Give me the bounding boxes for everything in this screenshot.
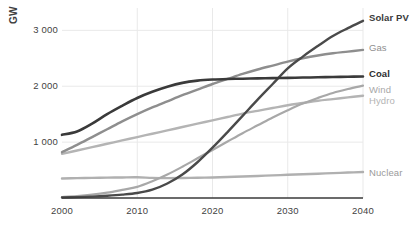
x-tick-label: 2030 xyxy=(277,205,299,216)
plot-area xyxy=(0,0,416,228)
y-axis-title: GW xyxy=(8,6,19,24)
x-tick-label: 2010 xyxy=(126,205,148,216)
series-label-gas: Gas xyxy=(369,42,387,53)
y-tick-label: 2 000 xyxy=(33,80,58,91)
x-tick-label: 2020 xyxy=(202,205,224,216)
y-tick-label: 1 000 xyxy=(33,136,58,147)
series-label-coal: Coal xyxy=(369,68,390,79)
series-label-wind: Wind xyxy=(369,84,391,95)
x-tick-label: 2040 xyxy=(352,205,374,216)
series-label-solar-pv: Solar PV xyxy=(369,12,409,23)
y-tick-label: 3 000 xyxy=(33,24,58,35)
series-label-hydro: Hydro xyxy=(369,95,395,106)
x-tick-label: 2000 xyxy=(51,205,73,216)
series-label-nuclear: Nuclear xyxy=(369,167,402,178)
line-chart: GW 1 0002 0003 000 20002010202020302040 … xyxy=(0,0,416,228)
